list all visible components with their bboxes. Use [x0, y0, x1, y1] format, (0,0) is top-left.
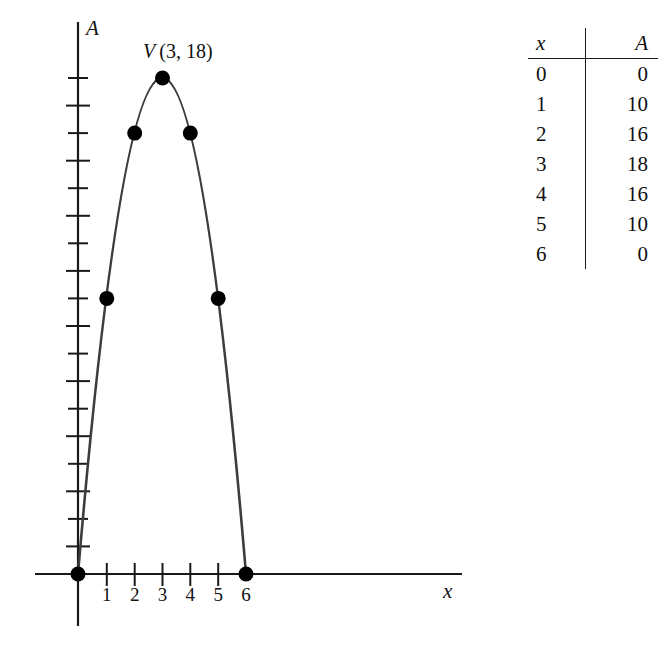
table-row: 2 16 — [528, 119, 658, 149]
data-table-container: x A 0 0 1 10 2 16 3 18 — [528, 28, 658, 269]
table-row: 5 10 — [528, 209, 658, 239]
vertex-letter: V — [143, 40, 155, 62]
table-cell-x: 2 — [528, 119, 585, 149]
vertex-annotation: V(3, 18) — [143, 40, 213, 63]
table-row: 1 10 — [528, 89, 658, 119]
y-axis-label: A — [86, 18, 99, 39]
table-cell-x: 6 — [528, 239, 585, 269]
table-cell-a: 0 — [585, 59, 658, 90]
table-cell-a: 18 — [585, 149, 658, 179]
table-header-a: A — [585, 28, 658, 59]
data-point-6-0 — [239, 567, 254, 582]
table-cell-x: 3 — [528, 149, 585, 179]
table-cell-a: 10 — [585, 89, 658, 119]
table-cell-x: 5 — [528, 209, 585, 239]
parabola-curve — [78, 78, 246, 574]
x-tick-label-4: 4 — [180, 585, 200, 604]
table-cell-a: 10 — [585, 209, 658, 239]
x-tick-label-6: 6 — [236, 585, 256, 604]
figure-container: A x V(3, 18) 1 2 3 4 5 6 x A 0 0 1 — [0, 0, 669, 653]
x-tick-label-3: 3 — [153, 585, 173, 604]
x-tick-label-5: 5 — [208, 585, 228, 604]
data-point-2-16 — [127, 126, 142, 141]
data-point-4-16 — [183, 126, 198, 141]
table-row: 3 18 — [528, 149, 658, 179]
data-points — [71, 71, 254, 582]
table-body: 0 0 1 10 2 16 3 18 4 16 — [528, 59, 658, 270]
table-row: 0 0 — [528, 59, 658, 90]
data-point-1-10 — [99, 291, 114, 306]
table-head: x A — [528, 28, 658, 59]
data-point-5-10 — [211, 291, 226, 306]
table-cell-x: 4 — [528, 179, 585, 209]
x-axis-label: x — [443, 581, 452, 602]
vertex-coordinates: (3, 18) — [159, 40, 212, 62]
data-point-3-18 — [155, 71, 170, 86]
x-tick-label-1: 1 — [97, 585, 117, 604]
x-tick-label-2: 2 — [125, 585, 145, 604]
table-cell-x: 1 — [528, 89, 585, 119]
table-cell-a: 0 — [585, 239, 658, 269]
table-cell-a: 16 — [585, 119, 658, 149]
table-header-row: x A — [528, 28, 658, 59]
table-row: 4 16 — [528, 179, 658, 209]
table-row: 6 0 — [528, 239, 658, 269]
table-cell-a: 16 — [585, 179, 658, 209]
table-cell-x: 0 — [528, 59, 585, 90]
data-table: x A 0 0 1 10 2 16 3 18 — [528, 28, 658, 269]
table-header-x: x — [528, 28, 585, 59]
data-point-0-0 — [71, 567, 86, 582]
